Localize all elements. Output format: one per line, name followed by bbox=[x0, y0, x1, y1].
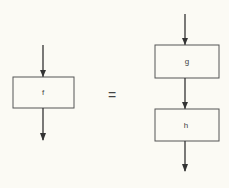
arrowhead-icon bbox=[182, 38, 188, 45]
equals-sign: = bbox=[108, 87, 116, 103]
arrowhead-icon bbox=[182, 102, 188, 109]
arrowhead-icon bbox=[40, 133, 46, 141]
left-function-block: f bbox=[13, 45, 74, 141]
composition-diagram: f = g h bbox=[0, 0, 229, 188]
arrowhead-icon bbox=[40, 70, 46, 77]
arrowhead-icon bbox=[182, 164, 188, 172]
box-label-g: g bbox=[185, 57, 189, 66]
box-label-h: h bbox=[184, 121, 188, 130]
right-composition-block: g h bbox=[155, 14, 219, 172]
